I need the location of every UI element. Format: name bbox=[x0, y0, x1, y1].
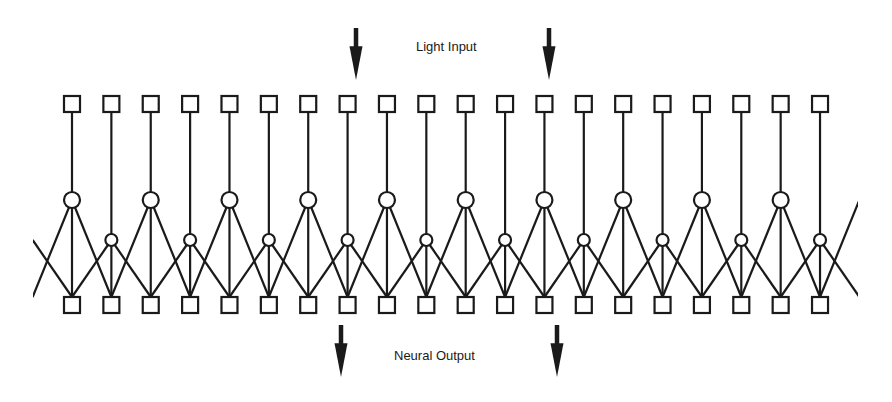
large-interneuron-node bbox=[773, 192, 789, 208]
receptor-node bbox=[812, 96, 828, 112]
down-arrow-icon bbox=[335, 325, 348, 377]
large-interneuron-node bbox=[379, 192, 395, 208]
down-arrow-icon bbox=[551, 325, 564, 377]
receptor-node bbox=[615, 96, 631, 112]
receptor-node bbox=[418, 96, 434, 112]
receptor-node bbox=[182, 96, 198, 112]
output-node bbox=[773, 297, 789, 313]
neural-network-diagram: Light Input Neural Output bbox=[0, 0, 892, 402]
output-node bbox=[615, 297, 631, 313]
small-interneuron-node bbox=[499, 234, 511, 246]
output-node bbox=[143, 297, 159, 313]
output-node bbox=[418, 297, 434, 313]
receptor-node bbox=[694, 96, 710, 112]
small-interneuron-node bbox=[657, 234, 669, 246]
network-graphic bbox=[0, 0, 892, 402]
output-node bbox=[458, 297, 474, 313]
small-interneuron-node bbox=[105, 234, 117, 246]
arrow-layer bbox=[335, 28, 564, 377]
receptor-node bbox=[655, 96, 671, 112]
receptor-node bbox=[458, 96, 474, 112]
light-input-label: Light Input bbox=[416, 40, 477, 53]
receptor-node bbox=[261, 96, 277, 112]
output-node bbox=[221, 297, 237, 313]
output-node bbox=[812, 297, 828, 313]
output-node bbox=[261, 297, 277, 313]
output-node bbox=[340, 297, 356, 313]
neural-output-label: Neural Output bbox=[394, 349, 475, 362]
receptor-node bbox=[773, 96, 789, 112]
large-interneuron-node bbox=[221, 192, 237, 208]
receptor-node bbox=[340, 96, 356, 112]
small-interneuron-node bbox=[263, 234, 275, 246]
small-interneuron-node bbox=[814, 234, 826, 246]
output-node bbox=[64, 297, 80, 313]
receptor-node bbox=[300, 96, 316, 112]
receptor-node bbox=[733, 96, 749, 112]
output-node bbox=[379, 297, 395, 313]
large-interneuron-node bbox=[64, 192, 80, 208]
down-arrow-icon bbox=[350, 28, 363, 80]
receptor-node bbox=[103, 96, 119, 112]
down-arrow-icon bbox=[543, 28, 556, 80]
large-interneuron-node bbox=[458, 192, 474, 208]
output-node bbox=[576, 297, 592, 313]
receptor-node bbox=[64, 96, 80, 112]
large-interneuron-node bbox=[615, 192, 631, 208]
output-node bbox=[536, 297, 552, 313]
large-interneuron-node bbox=[536, 192, 552, 208]
receptor-node bbox=[143, 96, 159, 112]
output-node bbox=[300, 297, 316, 313]
receptor-node bbox=[221, 96, 237, 112]
receptor-node bbox=[379, 96, 395, 112]
receptor-node bbox=[536, 96, 552, 112]
receptor-node bbox=[497, 96, 513, 112]
large-interneuron-node bbox=[300, 192, 316, 208]
small-interneuron-node bbox=[420, 234, 432, 246]
receptor-node bbox=[576, 96, 592, 112]
small-interneuron-node bbox=[342, 234, 354, 246]
large-interneuron-node bbox=[143, 192, 159, 208]
small-interneuron-node bbox=[735, 234, 747, 246]
small-interneuron-node bbox=[578, 234, 590, 246]
output-node bbox=[497, 297, 513, 313]
output-node bbox=[694, 297, 710, 313]
output-node bbox=[733, 297, 749, 313]
output-node bbox=[103, 297, 119, 313]
output-node bbox=[655, 297, 671, 313]
small-interneuron-node bbox=[184, 234, 196, 246]
output-node bbox=[182, 297, 198, 313]
large-interneuron-node bbox=[694, 192, 710, 208]
